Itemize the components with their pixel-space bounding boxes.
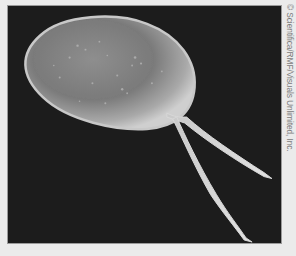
photo-credit: © Scientifica/RMF/Visuals Unlimited, Inc… bbox=[284, 4, 296, 244]
photo-credit-text: © Scientifica/RMF/Visuals Unlimited, Inc… bbox=[285, 4, 295, 152]
micrograph-image bbox=[8, 6, 281, 243]
micrograph-photo bbox=[7, 5, 282, 244]
